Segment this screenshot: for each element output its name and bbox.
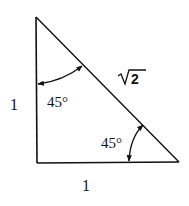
- bottom-side-label: 1: [82, 177, 90, 194]
- bottom-angle-label: 45°: [101, 135, 122, 151]
- left-side-label: 1: [10, 96, 18, 113]
- bottom-side-line: [37, 162, 179, 163]
- hypotenuse-label: 2: [131, 71, 139, 87]
- left-side-line: [36, 17, 37, 163]
- triangle-diagram: 2 1 1 45° 45°: [0, 0, 189, 206]
- top-angle-arc: [38, 66, 82, 84]
- bottom-angle-arc: [129, 125, 143, 161]
- top-angle-label: 45°: [47, 94, 68, 110]
